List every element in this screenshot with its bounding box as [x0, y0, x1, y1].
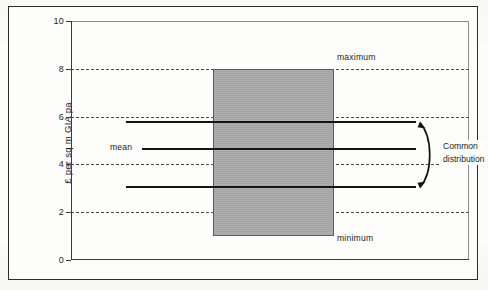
lower-bound-line [126, 186, 416, 188]
y-tick-label-10: 10 [54, 16, 64, 26]
y-tick-mark-4 [66, 164, 71, 165]
common-distribution-label-line1: Common [443, 140, 485, 153]
common-distribution-arrow-icon [411, 115, 445, 195]
y-tick-label-2: 2 [59, 207, 64, 217]
common-distribution-label: Common distribution [441, 140, 487, 165]
y-tick-label-8: 8 [59, 64, 64, 74]
y-axis-line [71, 21, 72, 260]
maximum-label: maximum [335, 52, 378, 62]
y-tick-mark-0 [66, 260, 71, 261]
plot-border-top [71, 21, 469, 22]
plot-area: 10 8 6 4 2 0 [71, 21, 469, 260]
mean-line [142, 148, 416, 150]
figure-container: £ per sq m GIA pa 10 8 6 [0, 0, 488, 290]
y-tick-mark-2 [66, 212, 71, 213]
distribution-range-bar [213, 69, 334, 236]
y-tick-mark-6 [66, 117, 71, 118]
y-tick-label-4: 4 [59, 159, 64, 169]
figure-outer-frame: £ per sq m GIA pa 10 8 6 [8, 6, 478, 280]
y-tick-mark-10 [66, 21, 71, 22]
mean-label: mean [108, 142, 134, 152]
x-axis-line [71, 259, 469, 260]
common-distribution-label-line2: distribution [443, 153, 485, 166]
y-tick-label-0: 0 [59, 255, 64, 265]
minimum-label: minimum [335, 233, 375, 243]
upper-bound-line [126, 121, 416, 123]
y-tick-mark-8 [66, 69, 71, 70]
y-tick-label-6: 6 [59, 112, 64, 122]
